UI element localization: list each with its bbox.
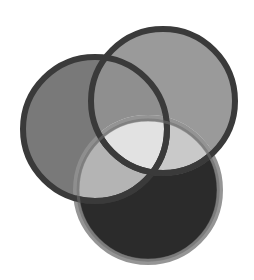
figure-root: regions in a Live Paint group — [0, 0, 254, 280]
venn-diagram — [0, 0, 254, 280]
venn-svg — [0, 0, 254, 280]
